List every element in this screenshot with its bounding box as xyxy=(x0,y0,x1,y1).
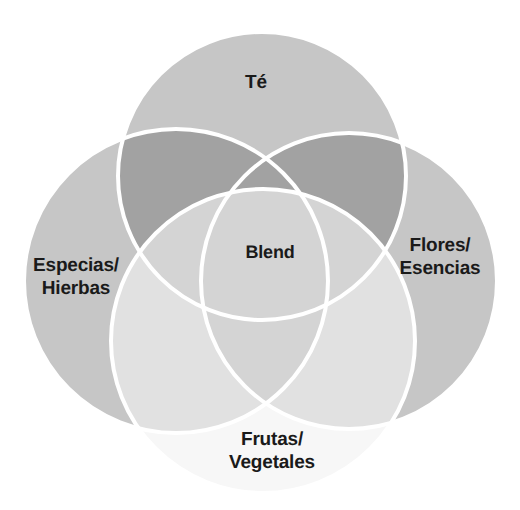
venn-diagram: Té Especias/ Hierbas Flores/ Esencias Fr… xyxy=(0,0,520,510)
venn-canvas xyxy=(0,0,520,510)
